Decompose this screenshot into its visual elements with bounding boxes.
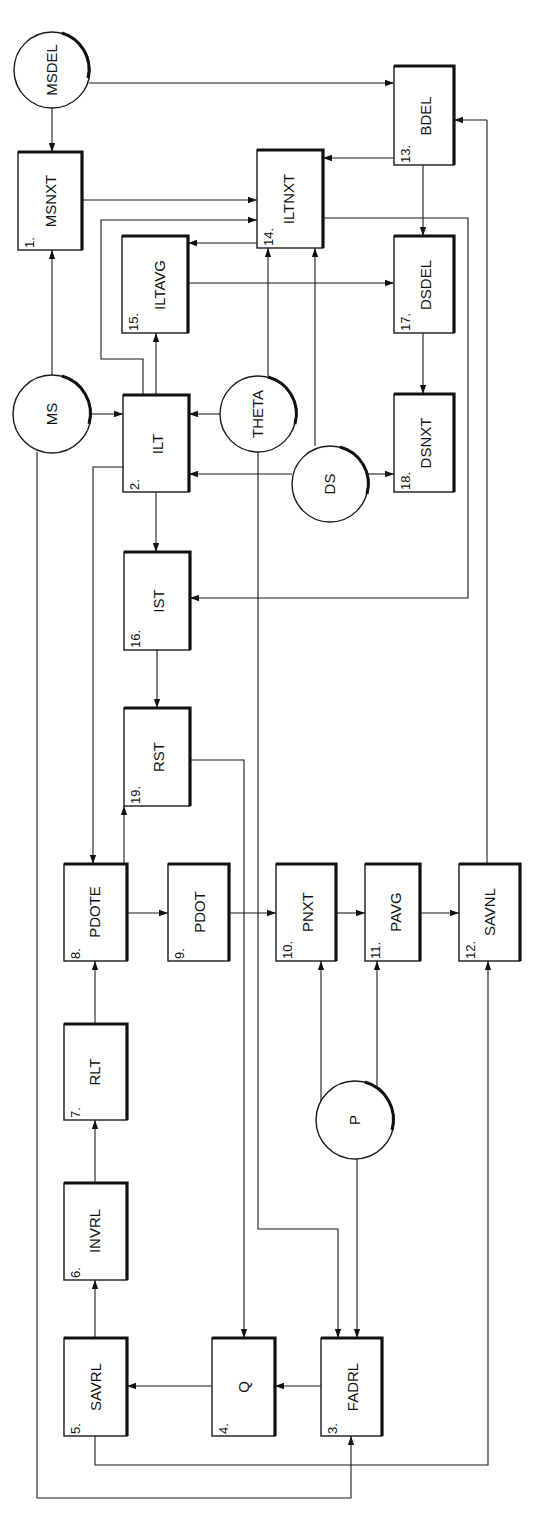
box-1-msnxt: 1. MSNXT: [18, 152, 82, 250]
box-7-rlt: 7. RLT: [64, 1024, 127, 1120]
box-number: 15.: [126, 313, 141, 331]
box-label: PAVG: [387, 892, 404, 931]
box-number: 6.: [68, 1267, 83, 1278]
box-label: ILTAVG: [151, 260, 168, 310]
box-number: 5.: [68, 1423, 83, 1434]
box-number: 1.: [22, 237, 37, 248]
box-number: 11.: [368, 942, 383, 959]
box-number: 7.: [68, 1107, 83, 1118]
box-18-dsnxt: 18. DSNXT: [394, 394, 454, 492]
box-12-savnl: 12. SAVNL: [459, 864, 520, 961]
box-number: 19.: [128, 786, 143, 804]
box-8-pdote: 8. PDOTE: [64, 864, 127, 961]
node-ds-label: DS: [321, 474, 338, 495]
box-number: 3.: [325, 1423, 340, 1434]
box-17-dsdel: 17. DSDEL: [394, 236, 454, 333]
box-5-savrl: 5. SAVRL: [64, 1338, 127, 1436]
box-number: 8.: [68, 948, 83, 959]
box-label: INVRL: [86, 1209, 103, 1253]
box-label: RLT: [86, 1058, 103, 1085]
box-label: FADRL: [344, 1363, 361, 1411]
box-9-pdot: 9. PDOT: [168, 864, 229, 961]
box-number: 14.: [261, 228, 276, 246]
box-label: IST: [150, 589, 167, 612]
box-14-iltnxt: 14. ILTNXT: [257, 150, 323, 248]
box-number: 12.: [463, 941, 478, 959]
node-msdel-label: MSDEL: [43, 44, 60, 96]
node-p-label: P: [346, 1115, 363, 1125]
box-number: 9.: [172, 948, 187, 959]
node-theta-label: THETA: [249, 390, 266, 438]
box-11-pavg: 11. PAVG: [365, 864, 420, 961]
box-number: 18.: [398, 472, 413, 490]
box-label: DSDEL: [417, 260, 434, 310]
box-label: Q: [235, 1381, 252, 1393]
box-label: MSNXT: [42, 175, 59, 228]
box-label: PDOT: [191, 891, 208, 933]
node-ds: DS: [292, 446, 368, 522]
node-msdel: MSDEL: [14, 32, 90, 108]
box-10-pnxt: 10. PNXT: [276, 864, 336, 961]
box-label: SAVNL: [481, 888, 498, 936]
box-4-q: 4. Q: [212, 1338, 275, 1436]
box-number: 17.: [398, 313, 413, 331]
box-number: 4.: [216, 1423, 231, 1434]
box-label: PDOTE: [86, 886, 103, 938]
box-label: DSNXT: [417, 418, 434, 469]
box-label: ILTNXT: [280, 174, 297, 225]
node-p: P: [316, 1081, 394, 1159]
flow-diagram: MSDEL MS THETA DS P 1. MSNXT 13. BDEL 14…: [0, 0, 541, 1524]
box-19-rst: 19. RST: [124, 708, 190, 806]
box-13-bdel: 13. BDEL: [394, 66, 454, 165]
box-number: 16.: [128, 630, 143, 648]
box-label: ILT: [149, 434, 166, 455]
box-2-ilt: 2. ILT: [123, 395, 189, 492]
box-number: 13.: [398, 145, 413, 163]
box-16-ist: 16. IST: [124, 552, 190, 650]
node-theta: THETA: [220, 376, 296, 452]
node-ms-label: MS: [43, 403, 60, 426]
box-label: SAVRL: [87, 1363, 104, 1411]
box-label: PNXT: [299, 892, 316, 932]
node-ms: MS: [13, 375, 91, 453]
box-3-fadrl: 3. FADRL: [321, 1338, 382, 1436]
box-number: 10.: [280, 941, 295, 959]
box-label: RST: [150, 742, 167, 772]
box-number: 2.: [127, 479, 142, 490]
box-15-iltavg: 15. ILTAVG: [122, 236, 188, 333]
box-label: BDEL: [417, 96, 434, 135]
box-6-invrl: 6. INVRL: [64, 1183, 127, 1280]
